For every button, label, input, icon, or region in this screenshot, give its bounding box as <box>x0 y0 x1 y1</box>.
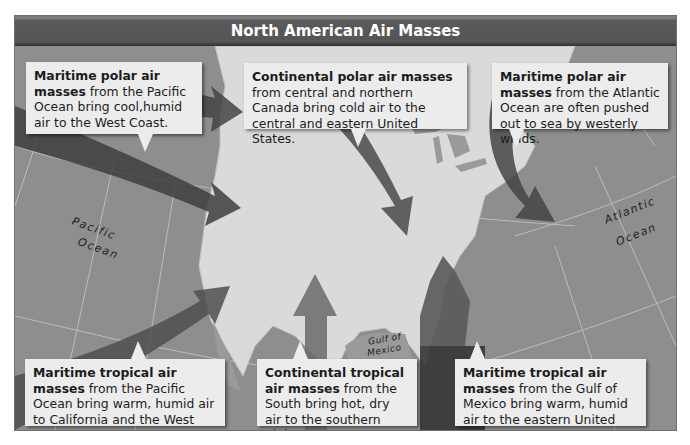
callout-pointer <box>293 341 308 359</box>
diagram-title: North American Air Masses <box>15 16 676 46</box>
callout-maritime-tropical-pacific: Maritime tropical air masses from the Pa… <box>25 359 225 426</box>
callout-maritime-tropical-gulf: Maritime tropical air masses from the Gu… <box>455 359 646 426</box>
callout-pointer <box>509 129 524 147</box>
callout-maritime-polar-atlantic: Maritime polar air masses from the Atlan… <box>492 63 668 129</box>
callout-pointer <box>351 129 366 147</box>
callout-maritime-polar-pacific: Maritime polar air masses from the Pacif… <box>26 62 202 134</box>
callout-continental-polar: Continental polar air masses from centra… <box>244 63 467 129</box>
callout-pointer <box>470 341 485 359</box>
callout-pointer <box>138 134 153 152</box>
callout-continental-tropical: Continental tropical air masses from the… <box>257 359 417 426</box>
callout-pointer <box>131 341 146 359</box>
callout-title: Continental polar air masses <box>252 69 453 84</box>
diagram-frame: North American Air Masses <box>15 16 676 430</box>
